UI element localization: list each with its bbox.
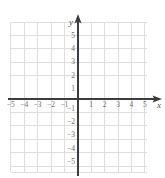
tick-label-y--5: −5 bbox=[62, 158, 75, 166]
tick-label-y-4: 4 bbox=[64, 45, 75, 53]
tick-label-x--5: −5 bbox=[5, 101, 17, 109]
scan-artifact-mark: · bbox=[32, 3, 34, 8]
tick-label-y--3: −3 bbox=[62, 131, 75, 139]
tick-label-x--2: −2 bbox=[45, 101, 57, 109]
tick-label-x-1: 1 bbox=[86, 101, 96, 109]
tick-label-y-5: 5 bbox=[64, 32, 75, 40]
tick-label-x-2: 2 bbox=[100, 101, 110, 109]
tick-label-x-4: 4 bbox=[126, 101, 136, 109]
tick-label-x-3: 3 bbox=[113, 101, 123, 109]
tick-label-y-3: 3 bbox=[64, 58, 75, 66]
y-axis bbox=[74, 14, 81, 176]
coordinate-plane-figure: y x −5 −4 −3 −2 −1 1 2 3 4 5 5 4 3 2 1 −… bbox=[0, 0, 165, 178]
tick-label-x-5: 5 bbox=[140, 101, 150, 109]
tick-label-y-1: 1 bbox=[64, 85, 75, 93]
tick-label-x--4: −4 bbox=[18, 101, 30, 109]
x-axis-label: x bbox=[157, 101, 161, 110]
tick-label-y-2: 2 bbox=[64, 72, 75, 80]
coordinate-grid-svg bbox=[0, 0, 165, 178]
tick-label-y--4: −4 bbox=[62, 145, 75, 153]
tick-label-y--1: −1 bbox=[62, 105, 75, 113]
tick-label-y--2: −2 bbox=[62, 118, 75, 126]
tick-label-x--3: −3 bbox=[32, 101, 44, 109]
y-axis-label: y bbox=[69, 18, 73, 27]
